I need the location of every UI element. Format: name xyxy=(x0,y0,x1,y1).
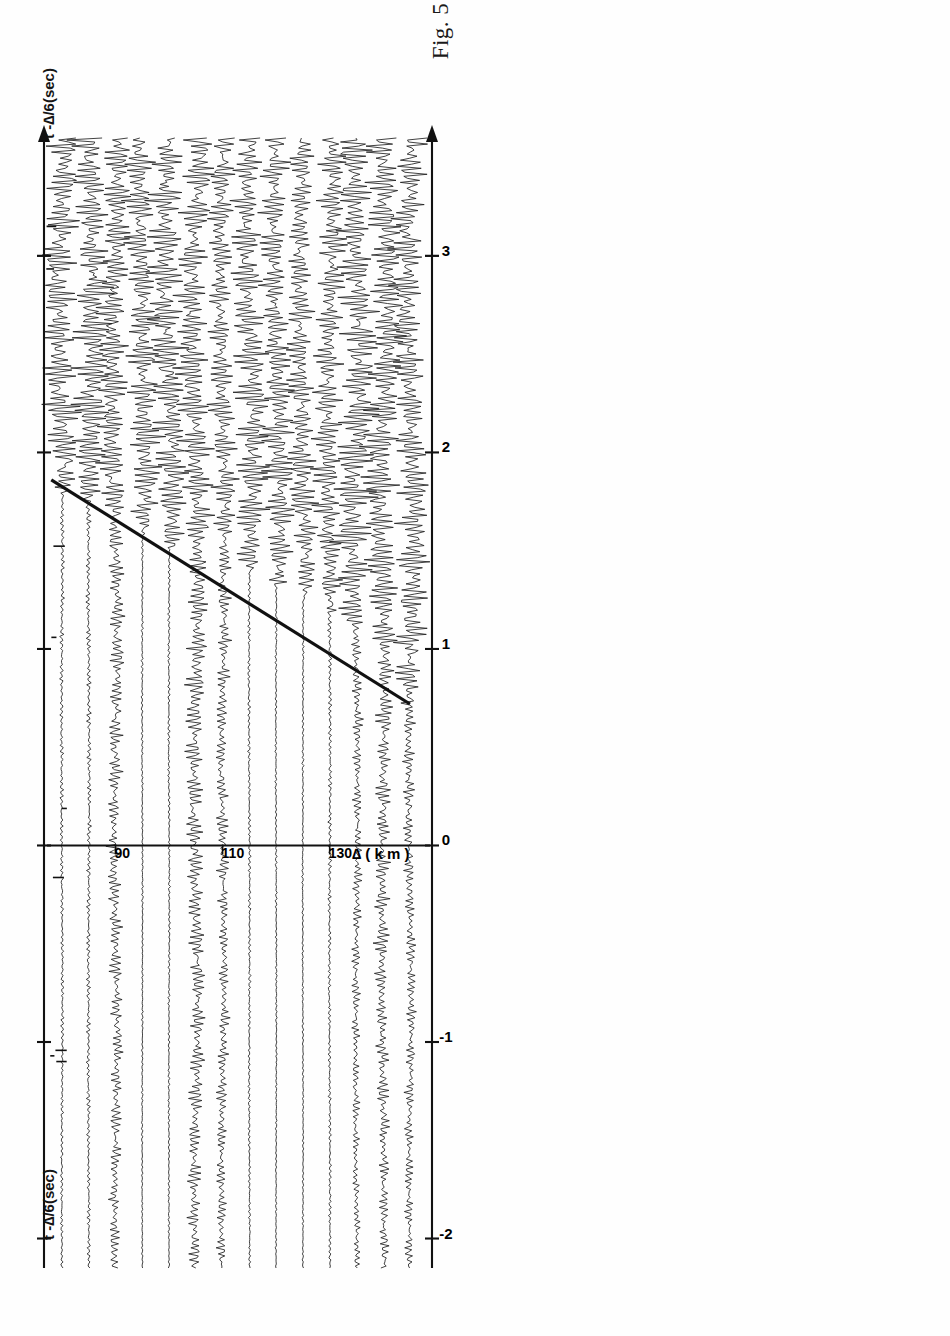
figure-panel-fig5: Fig. 5 t -∆/6(sec) t -∆/6(sec) 3210-1-21… xyxy=(0,0,475,1336)
figure-panel-fig6: Fig. 6 t -∆/6(sec) t -∆/6(sec) 3210-1-21… xyxy=(475,0,950,1336)
svg-text:1: 1 xyxy=(442,635,450,652)
svg-text:∆ ( k m ): ∆ ( k m ) xyxy=(352,845,410,862)
svg-text:130: 130 xyxy=(329,845,353,861)
svg-text:-2: -2 xyxy=(439,1225,452,1242)
svg-text:110: 110 xyxy=(222,845,245,861)
svg-text:3: 3 xyxy=(442,242,450,259)
svg-text:2: 2 xyxy=(442,438,450,455)
fig5-svg: 3210-1-213011090∆ ( k m )3210-1-2 xyxy=(32,92,462,1282)
svg-text:0: 0 xyxy=(442,831,450,848)
svg-text:90: 90 xyxy=(115,845,131,861)
fig5-axes-group: 3210-1-213011090∆ ( k m )3210-1-2 xyxy=(32,125,453,1268)
fig5-trace-group xyxy=(42,138,430,1268)
figure-caption-fig5: Fig. 5 xyxy=(428,0,454,76)
record-section-fig5: 3210-1-213011090∆ ( k m )3210-1-2 xyxy=(32,92,462,1282)
figure-page: Fig. 5 t -∆/6(sec) t -∆/6(sec) 3210-1-21… xyxy=(0,0,950,1336)
svg-text:-1: -1 xyxy=(439,1028,452,1045)
